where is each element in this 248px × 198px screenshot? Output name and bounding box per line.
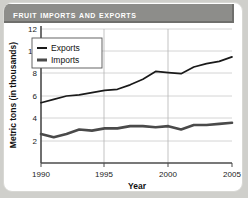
legend-label-imports: Imports: [51, 55, 79, 65]
legend-label-exports: Exports: [51, 43, 80, 53]
y-tick-2: 2: [33, 137, 38, 146]
series-line-imports: [41, 123, 232, 138]
y-tick-6: 6: [33, 92, 38, 101]
chart-legend[interactable]: Exports Imports: [32, 38, 102, 68]
chart-plot-area: 12 10 8 6 4 2 1990 1995 2000 2005: [4, 23, 243, 191]
x-axis-title: Year: [128, 181, 147, 191]
x-tick-1995: 1995: [95, 170, 113, 179]
page-title: Fruit Imports and Exports: [13, 8, 136, 20]
title-banner: Fruit Imports and Exports: [4, 4, 234, 23]
y-axis-title: Metric tons (in thousands): [8, 42, 18, 148]
line-chart: 12 10 8 6 4 2 1990 1995 2000 2005: [4, 23, 243, 191]
x-tick-labels: 1990 1995 2000 2005: [32, 170, 241, 179]
y-tick-12: 12: [28, 25, 37, 34]
y-tick-8: 8: [33, 69, 38, 78]
figure-card: Fruit Imports and Exports: [3, 2, 243, 192]
x-tick-2005: 2005: [223, 170, 241, 179]
x-tick-2000: 2000: [159, 170, 177, 179]
y-tick-4: 4: [33, 114, 38, 123]
x-tick-1990: 1990: [32, 170, 50, 179]
